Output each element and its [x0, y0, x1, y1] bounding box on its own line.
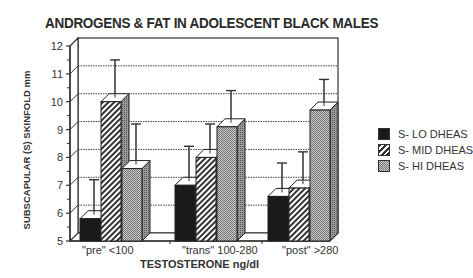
category-label-trans: "trans" 100-280	[182, 244, 258, 256]
legend-swatch-solid	[378, 128, 390, 140]
legend-label: S- MID DHEAS	[398, 144, 473, 156]
legend-item-hi: S- HI DHEAS	[378, 158, 473, 174]
category-label-pre: "pre" <100	[82, 244, 134, 256]
svg-text:7: 7	[57, 179, 63, 191]
legend-swatch-dots	[378, 160, 390, 172]
x-axis-label: TESTOSTERONE ng/dl	[140, 258, 259, 270]
legend-label: S- HI DHEAS	[398, 160, 464, 172]
svg-text:9: 9	[57, 124, 63, 136]
legend-swatch-hatch	[378, 144, 390, 156]
svg-text:8: 8	[57, 151, 63, 163]
legend-item-lo: S- LO DHEAS	[378, 126, 473, 142]
legend-label: S- LO DHEAS	[398, 128, 468, 140]
svg-text:11: 11	[52, 68, 63, 80]
svg-text:5: 5	[57, 235, 63, 247]
svg-text:6: 6	[57, 207, 63, 219]
category-label-post: "post" >280	[282, 244, 338, 256]
legend-item-mid: S- MID DHEAS	[378, 142, 473, 158]
legend: S- LO DHEAS S- MID DHEAS S- HI DHEAS	[378, 126, 473, 174]
svg-text:10: 10	[51, 96, 63, 108]
svg-text:12: 12	[51, 40, 63, 52]
